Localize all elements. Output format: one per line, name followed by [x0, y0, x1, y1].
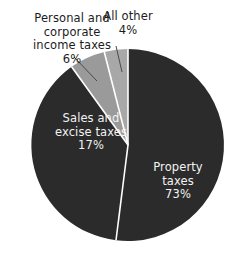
- pie-label-property-taxes: Property taxes 73%: [137, 161, 219, 202]
- pie-label-value: 6%: [2, 53, 142, 67]
- pie-chart: Personal and corporate income taxes 6% A…: [0, 0, 236, 267]
- pie-label-sales-and-excise-taxes: Sales and excise taxes 17%: [36, 112, 146, 153]
- pie-label-value: 4%: [82, 24, 174, 38]
- pie-label-line-2: excise taxes: [55, 125, 127, 139]
- pie-label-line-1: Property: [153, 160, 202, 174]
- pie-label-line-3: income taxes: [33, 38, 111, 52]
- pie-label-line-2: taxes: [162, 174, 194, 188]
- pie-label-value: 17%: [36, 139, 146, 153]
- pie-label-value: 73%: [137, 188, 219, 202]
- pie-label-all-other: All other 4%: [82, 10, 174, 37]
- pie-label-line-1: All other: [103, 9, 152, 23]
- pie-label-line-1: Sales and: [63, 111, 120, 125]
